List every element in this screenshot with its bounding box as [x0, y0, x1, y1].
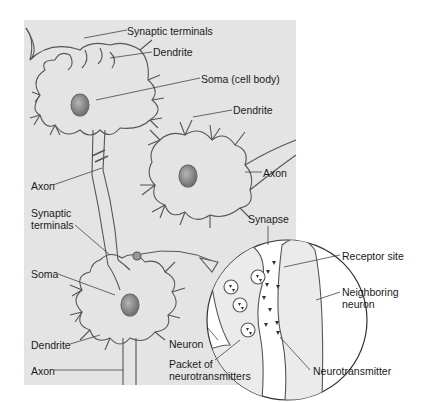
label-synaptic-terminals-top: Synaptic terminals [127, 25, 213, 37]
label-packet-2: neurotransmitters [169, 370, 251, 382]
label-soma-lower: Soma [31, 268, 58, 280]
label-synaptic-terminals-lower-2: terminals [31, 219, 74, 231]
label-neuron: Neuron [169, 338, 203, 350]
label-receptor-site: Receptor site [342, 250, 404, 262]
label-dendrite-top: Dendrite [153, 46, 193, 58]
label-packet-1: Packet of [169, 358, 213, 370]
label-neurotransmitter: Neurotransmitter [313, 365, 391, 377]
label-neighboring-neuron-2: neuron [342, 298, 375, 310]
label-synapse: Synapse [248, 213, 289, 225]
label-neighboring-neuron-1: Neighboring [342, 286, 399, 298]
label-dendrite-middle: Dendrite [233, 104, 273, 116]
label-axon-left: Axon [31, 180, 55, 192]
label-axon-bottom: Axon [31, 365, 55, 377]
label-dendrite-lower: Dendrite [31, 339, 71, 351]
label-synaptic-terminals-lower-1: Synaptic [31, 207, 71, 219]
label-soma-cell-body: Soma (cell body) [201, 73, 280, 85]
label-axon-right: Axon [263, 167, 287, 179]
